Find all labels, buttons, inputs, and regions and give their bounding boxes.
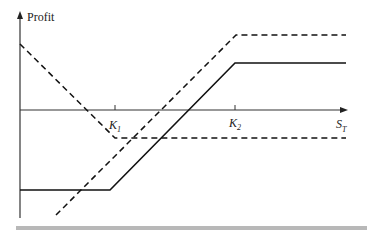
bottom-divider — [16, 226, 367, 230]
dashed-line-k1 — [20, 44, 346, 138]
solid-profit-line — [20, 63, 346, 190]
y-axis-label: Profit — [27, 10, 55, 24]
payoff-chart: Profit K1 K2 ST — [0, 0, 367, 230]
y-axis-arrow-icon — [17, 11, 23, 19]
dashed-line-k2 — [56, 35, 346, 215]
st-label: ST — [336, 117, 347, 134]
k2-label: K2 — [228, 116, 241, 132]
x-axis-arrow-icon — [340, 107, 348, 113]
k1-label: K1 — [108, 118, 121, 134]
